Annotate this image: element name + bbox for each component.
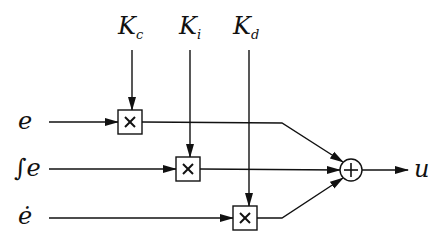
gain-label-kc: Kc: [117, 12, 144, 42]
multiplier-box-2: [176, 157, 200, 181]
pid-diagram: Kc Ki Kd e ∫e ė u: [0, 0, 446, 242]
integral-to-sum-wire: [200, 169, 340, 170]
input-label-e-dot: ė: [18, 202, 32, 230]
input-label-integral-e: ∫e: [14, 154, 41, 182]
input-label-e: e: [18, 107, 32, 135]
output-label-u: u: [414, 155, 429, 183]
gain-label-kd: Kd: [232, 12, 259, 42]
proportional-to-sum-wire: [142, 122, 343, 162]
summing-junction: [340, 159, 362, 181]
gain-label-ki: Ki: [178, 12, 201, 42]
derivative-to-sum-wire: [257, 178, 343, 218]
multiplier-box-1: [118, 110, 142, 134]
multiplier-box-3: [233, 206, 257, 230]
